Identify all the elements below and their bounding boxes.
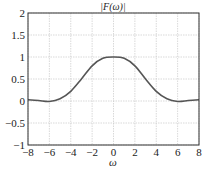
- x-axis-label: ω: [109, 156, 117, 168]
- y-tick-label: 1: [20, 51, 26, 63]
- x-tick-label: −2: [86, 146, 98, 158]
- x-tick-label: 2: [132, 146, 138, 158]
- x-tick-label: 4: [154, 146, 160, 158]
- y-tick-label: −0.5: [5, 117, 25, 129]
- grid-lines: [28, 13, 199, 145]
- x-tick-label: −4: [65, 146, 77, 158]
- line-chart: −1−0.500.511.52 −8−6−4−202468 |F(ω)| ω: [0, 0, 206, 170]
- x-tick-label: 6: [175, 146, 181, 158]
- x-tick-label: 8: [196, 146, 202, 158]
- y-tick-label: 2: [20, 7, 26, 19]
- y-axis-ticks: −1−0.500.511.52: [5, 7, 25, 151]
- y-tick-label: 0.5: [11, 73, 25, 85]
- x-tick-label: −6: [44, 146, 56, 158]
- chart-title: |F(ω)|: [100, 1, 125, 13]
- y-tick-label: 0: [20, 95, 26, 107]
- x-tick-label: −8: [22, 146, 34, 158]
- y-tick-label: 1.5: [11, 29, 25, 41]
